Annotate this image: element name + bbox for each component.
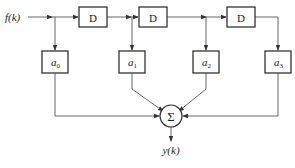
coefficient-block-a0: a0	[42, 51, 68, 73]
delay-block-3: D	[227, 7, 255, 27]
coefficient-block-a2: a2	[193, 51, 219, 73]
output-label: y(k)	[161, 144, 179, 157]
input-label: f(k)	[5, 11, 21, 24]
sigma-icon: Σ	[167, 109, 175, 124]
coefficient-block-a1: a1	[119, 51, 145, 73]
delay-label: D	[89, 12, 97, 24]
delay-label: D	[237, 12, 245, 24]
fir-filter-diagram: f(k) D D D a0 a1 a2 a3	[0, 0, 295, 168]
coefficient-block-a3: a3	[265, 51, 291, 73]
delay-block-1: D	[79, 7, 107, 27]
summing-junction: Σ	[160, 105, 182, 127]
delay-block-2: D	[139, 7, 167, 27]
delay-label: D	[149, 12, 157, 24]
